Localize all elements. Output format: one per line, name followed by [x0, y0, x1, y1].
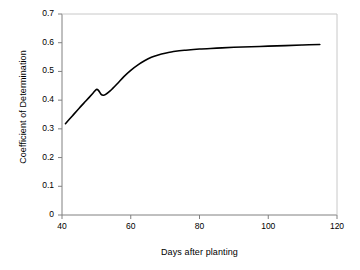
y-tick-label: 0.6: [28, 37, 54, 47]
y-tick-label: 0.4: [28, 94, 54, 104]
y-tick-label: 0.5: [28, 65, 54, 75]
x-tick-label: 60: [116, 221, 146, 231]
y-axis-title: Coefficient of Determination: [18, 0, 32, 215]
x-axis-title: Days after planting: [62, 247, 337, 257]
chart-figure: 00.10.20.30.40.50.60.7 406080100120 Coef…: [0, 0, 360, 270]
y-tick-label: 0.3: [28, 123, 54, 133]
x-tick-label: 100: [253, 221, 283, 231]
x-tick-label: 40: [47, 221, 77, 231]
y-tick-label: 0.7: [28, 8, 54, 18]
x-tick-label: 80: [185, 221, 215, 231]
y-tick-marks: [58, 14, 62, 215]
y-tick-label: 0.1: [28, 180, 54, 190]
x-tick-label: 120: [322, 221, 352, 231]
x-tick-marks: [62, 215, 337, 219]
data-series-line: [65, 44, 319, 123]
y-tick-label: 0: [28, 209, 54, 219]
y-tick-label: 0.2: [28, 152, 54, 162]
